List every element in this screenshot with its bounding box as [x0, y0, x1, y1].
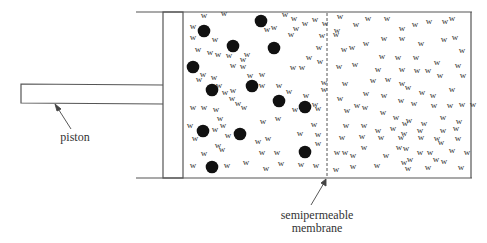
solute-particle — [234, 128, 247, 141]
water-molecule: w — [315, 138, 322, 148]
water-molecule: w — [405, 163, 412, 173]
solute-particle — [299, 101, 312, 114]
water-molecule: w — [297, 128, 304, 138]
water-molecule: w — [243, 157, 250, 167]
water-molecule: w — [363, 38, 370, 48]
water-molecule: w — [302, 18, 309, 28]
water-molecule: w — [201, 102, 208, 112]
water-molecule: w — [255, 136, 262, 146]
water-molecule: w — [425, 65, 432, 75]
solute-particle — [206, 84, 219, 97]
water-molecule: w — [396, 142, 403, 152]
water-molecule: w — [244, 49, 251, 59]
water-molecule: w — [201, 10, 208, 20]
water-molecule: w — [381, 90, 388, 100]
water-molecule: w — [359, 131, 366, 141]
water-molecule: w — [455, 60, 462, 70]
water-molecule: w — [275, 113, 282, 123]
water-molecule: w — [402, 118, 409, 128]
water-molecule: w — [375, 64, 382, 74]
water-molecule: w — [390, 123, 397, 133]
piston-plate — [163, 12, 183, 178]
water-molecule: w — [240, 61, 247, 71]
water-molecule: w — [319, 30, 326, 40]
water-molecule: w — [342, 147, 349, 157]
water-molecule: w — [241, 102, 248, 112]
solute-particle — [206, 161, 219, 174]
water-molecule: w — [344, 105, 351, 115]
water-molecule: w — [361, 142, 368, 152]
water-molecule: w — [411, 98, 418, 108]
water-molecule: w — [417, 147, 424, 157]
water-molecule: w — [333, 29, 340, 39]
water-molecule: w — [403, 143, 410, 153]
water-molecule: w — [381, 33, 388, 43]
membrane-label-arrow — [311, 179, 326, 205]
water-molecule: w — [437, 70, 444, 80]
water-molecule: w — [259, 147, 266, 157]
water-molecule: w — [224, 160, 231, 170]
water-molecule: w — [303, 90, 310, 100]
water-molecule: w — [222, 87, 229, 97]
water-molecule: w — [337, 11, 344, 21]
water-molecule: w — [442, 16, 449, 26]
water-molecule: w — [286, 86, 293, 96]
water-molecule: w — [395, 52, 402, 62]
water-molecule: w — [470, 99, 477, 109]
water-molecule: w — [449, 145, 456, 155]
water-molecule: w — [455, 133, 462, 143]
water-molecule: w — [196, 74, 203, 84]
water-molecule: w — [449, 13, 456, 23]
water-molecule: w — [441, 34, 448, 44]
water-molecule: w — [259, 69, 266, 79]
water-molecule: w — [353, 19, 360, 29]
water-molecule: w — [230, 60, 237, 70]
membrane-label-line2: membrane — [262, 222, 372, 235]
osmosis-piston-diagram: wwwwwwwwwwwwwwwwwwwwwwwwwwwwwwwwwwwwwwww… — [0, 0, 487, 243]
water-molecule: w — [321, 84, 328, 94]
water-molecule: w — [334, 147, 341, 157]
water-molecule: w — [349, 42, 356, 52]
water-molecule: w — [399, 64, 406, 74]
solute-particle — [246, 80, 259, 93]
water-molecule: w — [352, 59, 359, 69]
water-molecule: w — [288, 29, 295, 39]
water-molecule: w — [337, 93, 344, 103]
water-molecule: w — [212, 34, 219, 44]
piston-label: piston — [50, 131, 100, 144]
water-molecule: w — [398, 95, 405, 105]
water-molecule: w — [215, 49, 222, 59]
water-molecule: w — [378, 132, 385, 142]
water-molecule: w — [219, 144, 226, 154]
water-molecule: w — [201, 148, 208, 158]
water-molecule: w — [207, 47, 214, 57]
water-molecule: w — [453, 123, 460, 133]
water-molecule: w — [336, 61, 343, 71]
water-molecule: w — [292, 104, 299, 114]
water-molecule: w — [343, 120, 350, 130]
solute-particle — [198, 25, 211, 38]
water-molecule: w — [434, 57, 441, 67]
water-molecule: w — [341, 44, 348, 54]
water-molecule: w — [263, 163, 270, 173]
water-molecule: w — [342, 78, 349, 88]
water-molecule: w — [426, 16, 433, 26]
water-molecule: w — [425, 162, 432, 172]
water-molecule: w — [464, 147, 471, 157]
solute-particle — [273, 95, 286, 108]
water-molecule: w — [278, 158, 285, 168]
water-molecule: w — [370, 75, 377, 85]
water-molecule: w — [361, 120, 368, 130]
membrane-label: semipermeable membrane — [262, 209, 372, 235]
water-molecule: w — [380, 107, 387, 117]
water-molecule: w — [212, 124, 219, 134]
solute-particle — [197, 125, 210, 138]
water-molecule: w — [221, 8, 228, 18]
solute-particle — [268, 42, 281, 55]
water-molecule: w — [298, 159, 305, 169]
water-molecule: w — [362, 102, 369, 112]
water-molecule: w — [247, 70, 254, 80]
water-molecule: w — [374, 160, 381, 170]
water-molecule: w — [438, 137, 445, 147]
water-molecule: w — [440, 125, 447, 135]
